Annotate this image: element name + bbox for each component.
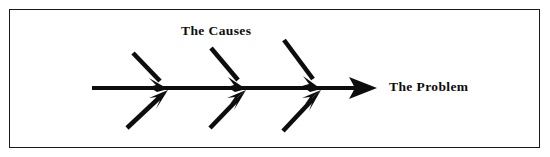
cause-branch-bottom-1 [127,90,168,128]
cause-branch-bottom-2 [210,90,246,128]
cause-branch-bottom-3-shaft [283,99,313,131]
the-causes-label: The Causes [181,24,251,38]
cause-branch-top-2 [211,48,246,92]
cause-branch-bottom-1-shaft [127,98,159,128]
cause-branch-bottom-2-shaft [210,99,238,128]
cause-branch-top-1-shaft [133,53,160,81]
the-problem-label: The Problem [389,80,469,94]
cause-branch-top-3 [284,40,321,92]
cause-branch-top-2-shaft [211,48,238,80]
cause-branch-top-3-shaft [284,40,313,79]
fishbone-diagram-figure: The Causes The Problem [0,0,550,157]
cause-branch-bottom-3 [283,90,321,131]
